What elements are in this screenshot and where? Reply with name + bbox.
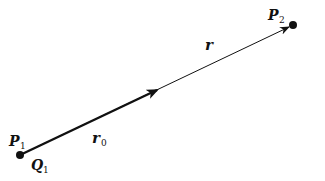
svg-text:0: 0 [101,138,107,148]
svg-text:1: 1 [43,165,49,175]
label-p2: P 2 [267,7,285,25]
label-p1: P 1 [8,133,26,151]
svg-text:r: r [205,36,214,54]
svg-text:1: 1 [20,141,26,151]
svg-text:P: P [267,7,279,23]
svg-text:r: r [92,129,101,147]
point-p1-dot [16,151,24,159]
svg-text:Q: Q [31,157,43,173]
point-p2-dot [289,21,297,29]
label-q1: Q 1 [31,157,49,175]
label-r: r [205,36,214,54]
vector-r0-line [20,90,157,155]
label-r0: r 0 [92,129,107,148]
svg-text:2: 2 [279,15,285,25]
vector-diagram: P 1 Q 1 P 2 r 0 r [0,0,325,181]
svg-text:P: P [8,133,20,149]
